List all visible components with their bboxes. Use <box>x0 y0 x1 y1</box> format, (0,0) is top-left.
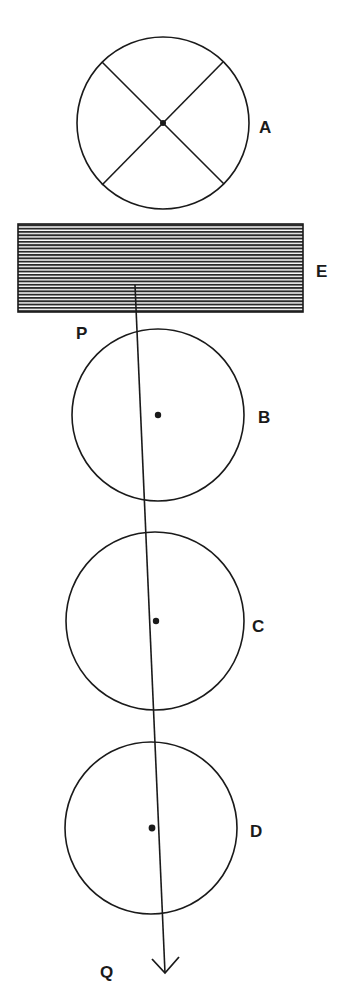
circle-d-center-dot <box>149 825 156 832</box>
label-c: C <box>252 617 264 636</box>
ray-pq <box>135 285 165 973</box>
label-e: E <box>316 262 327 281</box>
label-b: B <box>258 408 270 427</box>
label-p: P <box>76 324 87 343</box>
circle-c-center-dot <box>153 618 159 624</box>
circle-b-center-dot <box>155 412 161 418</box>
diagram-canvas: A E P B C D Q <box>0 0 348 981</box>
label-d: D <box>250 822 262 841</box>
circle-a-center-dot <box>160 120 166 126</box>
hatched-block-e <box>18 224 303 312</box>
label-a: A <box>259 118 271 137</box>
label-q: Q <box>100 963 113 981</box>
